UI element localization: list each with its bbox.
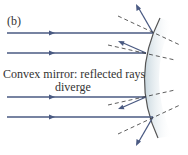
panel-label: (b) bbox=[7, 15, 21, 28]
convex-mirror-diagram: (b) Convex mirror: reflected rays diverg… bbox=[0, 0, 188, 155]
mirror bbox=[144, 18, 172, 138]
caption-line-2: diverge bbox=[55, 81, 91, 94]
